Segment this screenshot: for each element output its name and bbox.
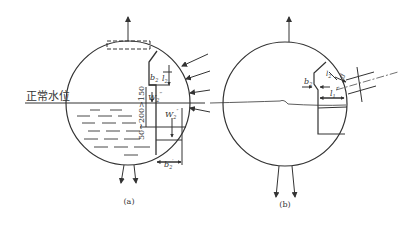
- caption-b: (b): [279, 200, 290, 209]
- dim-w2-triple: W2‴: [148, 91, 162, 103]
- dim-b2-b: b2: [304, 77, 312, 87]
- dim-w2-double: W2″: [165, 108, 178, 120]
- downcomer-arrow-a2: [134, 165, 136, 183]
- dim-l2-a: l2: [162, 74, 168, 84]
- downcomer-arrow-a1: [121, 165, 124, 183]
- dim-l1-b: l1: [330, 89, 336, 99]
- downcomer-arrow-b2: [292, 166, 295, 197]
- dim-r-b: r: [336, 84, 340, 91]
- dim-vertical-range: 50~200>150: [137, 86, 146, 140]
- dim-b2-a: b2: [150, 73, 158, 83]
- water-level-line-b: [210, 100, 346, 105]
- panel-b: [210, 17, 398, 197]
- downcomer-arrow-b1: [276, 166, 279, 197]
- inlet-pipe-b-top: [346, 72, 374, 80]
- diagram-canvas: 正常水位 b2 l2 W2‴ W2″ b2′ 50~200>150 (a) b2…: [0, 0, 419, 225]
- drum-shell-b: [223, 42, 347, 166]
- inlet-pipe-b-bottom: [348, 86, 376, 94]
- caption-a: (a): [123, 197, 134, 206]
- water-level-label: 正常水位: [26, 89, 70, 103]
- dim-b2-prime: b2′: [164, 158, 174, 170]
- dim-l2-b: l2: [326, 70, 331, 79]
- dim-d-b: d: [338, 72, 347, 79]
